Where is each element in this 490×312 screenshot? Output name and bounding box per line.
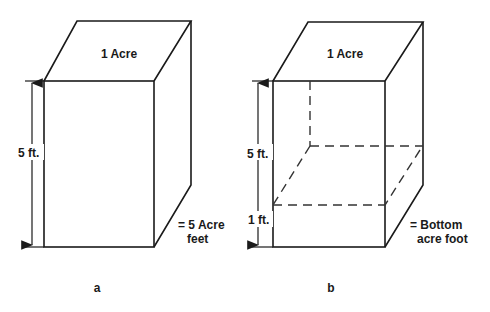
figure-b: 1 Acre 5 ft. 1 ft. = Bottom acre foot b bbox=[245, 22, 468, 295]
result-label-b-line1: = Bottom bbox=[410, 218, 462, 232]
box-a-right-face bbox=[154, 21, 191, 247]
height-label-b-upper: 5 ft. bbox=[247, 147, 268, 161]
height-label-a: 5 ft. bbox=[18, 146, 39, 160]
slab-right-diagonal bbox=[385, 150, 420, 205]
box-b-right-face bbox=[385, 22, 423, 247]
top-label-a: 1 Acre bbox=[101, 47, 138, 61]
result-label-a-line2: feet bbox=[187, 232, 208, 246]
result-label-b-line2: acre foot bbox=[417, 232, 468, 246]
acre-foot-diagram: 1 Acre 5 ft. = 5 Acre feet a 1 Acre 5 f bbox=[0, 0, 490, 312]
hidden-left-diagonal bbox=[273, 146, 310, 205]
bottom-acre-foot-slab bbox=[273, 81, 423, 205]
caption-b: b bbox=[327, 281, 334, 295]
figure-a: 1 Acre 5 ft. = 5 Acre feet a bbox=[16, 21, 225, 295]
caption-a: a bbox=[94, 281, 101, 295]
height-label-b-lower: 1 ft. bbox=[248, 213, 269, 227]
dimension-arrow-a bbox=[25, 81, 44, 247]
box-a-front-face bbox=[44, 81, 154, 247]
top-label-b: 1 Acre bbox=[327, 47, 364, 61]
result-label-a-line1: = 5 Acre bbox=[178, 218, 225, 232]
box-b-front-face bbox=[273, 81, 385, 247]
